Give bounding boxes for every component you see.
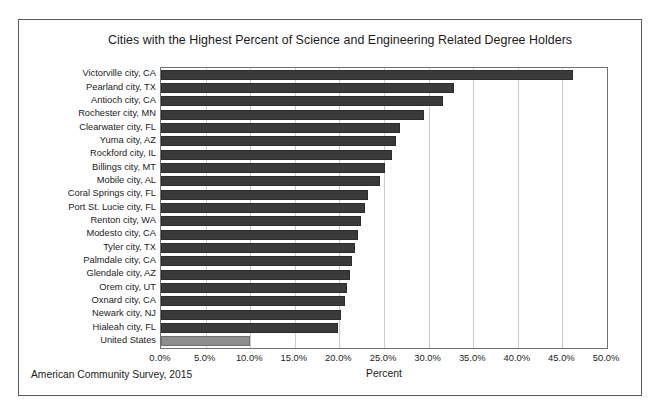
category-label: Rockford city, IL — [30, 148, 156, 158]
bar-row — [161, 241, 607, 254]
bar[interactable] — [161, 176, 380, 186]
x-axis-tick-label: 15.0% — [281, 352, 308, 364]
bar[interactable] — [161, 270, 350, 280]
bar[interactable] — [161, 336, 250, 346]
bar-row — [161, 308, 607, 321]
x-axis-tick-label: 5.0% — [194, 352, 215, 364]
bar-row — [161, 215, 607, 228]
bar-row — [161, 335, 607, 348]
bar-row — [161, 268, 607, 281]
category-label: Hialeah city, FL — [30, 322, 156, 332]
x-axis-tick-labels: 0.0%5.0%10.0%15.0%20.0%25.0%30.0%35.0%40… — [160, 352, 608, 366]
x-axis-tick-label: 30.0% — [414, 352, 441, 364]
bar[interactable] — [161, 83, 454, 93]
bar-row — [161, 68, 607, 81]
x-axis-tick-label: 0.0% — [149, 352, 170, 364]
bar[interactable] — [161, 243, 355, 253]
category-label: Pearland city, TX — [30, 82, 156, 92]
category-label: Orem city, UT — [30, 282, 156, 292]
x-axis-tick-label: 50.0% — [593, 352, 620, 364]
chart-screenshot: Cities with the Highest Percent of Scien… — [0, 0, 659, 415]
bar[interactable] — [161, 310, 341, 320]
bar[interactable] — [161, 323, 338, 333]
bar[interactable] — [161, 110, 424, 120]
category-label: Port St. Lucie city, FL — [30, 202, 156, 212]
category-label: Rochester city, MN — [30, 108, 156, 118]
x-axis-tick-label: 25.0% — [370, 352, 397, 364]
x-axis-title: Percent — [160, 368, 608, 379]
x-axis-tick-label: 20.0% — [325, 352, 352, 364]
category-label: Coral Springs city, FL — [30, 188, 156, 198]
category-axis-labels: Victorville city, CAPearland city, TXAnt… — [30, 67, 156, 349]
bar[interactable] — [161, 203, 365, 213]
bar[interactable] — [161, 163, 385, 173]
bar[interactable] — [161, 70, 573, 80]
bar-row — [161, 121, 607, 134]
source-note: American Community Survey, 2015 — [31, 369, 192, 380]
category-label: Newark city, NJ — [30, 308, 156, 318]
bar-row — [161, 161, 607, 174]
x-axis-tick-label: 40.0% — [504, 352, 531, 364]
category-label: Oxnard city, CA — [30, 295, 156, 305]
category-label: United States — [30, 335, 156, 345]
bar-row — [161, 108, 607, 121]
category-label: Billings city, MT — [30, 162, 156, 172]
bar-row — [161, 255, 607, 268]
bar-row — [161, 295, 607, 308]
category-label: Clearwater city, FL — [30, 122, 156, 132]
chart-title: Cities with the Highest Percent of Scien… — [60, 33, 620, 48]
bar[interactable] — [161, 283, 347, 293]
bar[interactable] — [161, 123, 400, 133]
bar-row — [161, 148, 607, 161]
bar-row — [161, 135, 607, 148]
category-label: Palmdale city, CA — [30, 255, 156, 265]
bar-row — [161, 321, 607, 334]
bar-series — [161, 68, 607, 348]
category-label: Modesto city, CA — [30, 228, 156, 238]
category-label: Tyler city, TX — [30, 242, 156, 252]
x-axis-tick-label: 45.0% — [548, 352, 575, 364]
bar-row — [161, 281, 607, 294]
bar-row — [161, 81, 607, 94]
bar-row — [161, 175, 607, 188]
category-label: Renton city, WA — [30, 215, 156, 225]
x-axis-tick-label: 35.0% — [459, 352, 486, 364]
plot-area — [160, 67, 608, 349]
bar-row — [161, 188, 607, 201]
bar-row — [161, 95, 607, 108]
bar-row — [161, 228, 607, 241]
category-label: Mobile city, AL — [30, 175, 156, 185]
category-label: Yuma city, AZ — [30, 135, 156, 145]
bar-row — [161, 201, 607, 214]
bar[interactable] — [161, 256, 352, 266]
bar[interactable] — [161, 136, 396, 146]
bar[interactable] — [161, 190, 368, 200]
bar[interactable] — [161, 296, 345, 306]
bar[interactable] — [161, 96, 443, 106]
category-label: Victorville city, CA — [30, 68, 156, 78]
category-label: Glendale city, AZ — [30, 268, 156, 278]
bar[interactable] — [161, 216, 361, 226]
bar[interactable] — [161, 150, 392, 160]
x-axis-tick-label: 10.0% — [236, 352, 263, 364]
category-label: Antioch city, CA — [30, 95, 156, 105]
bar[interactable] — [161, 230, 358, 240]
